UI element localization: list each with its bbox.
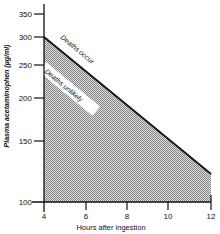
shaded-region bbox=[44, 37, 211, 202]
nomogram-chart: Deaths unlikely Deaths occur 350 300 250… bbox=[0, 0, 220, 234]
y-ticks bbox=[34, 14, 44, 141]
x-tick-labels: 4 6 8 10 12 bbox=[42, 212, 216, 221]
svg-text:200: 200 bbox=[19, 94, 33, 103]
x-axis-title: Hours after ingestion bbox=[76, 223, 145, 232]
svg-text:4: 4 bbox=[42, 212, 47, 221]
svg-text:350: 350 bbox=[19, 10, 33, 19]
svg-text:100: 100 bbox=[19, 198, 33, 207]
svg-text:6: 6 bbox=[84, 212, 89, 221]
y-axis-title: Plasma acetaminophen (µg/ml) bbox=[3, 44, 11, 148]
y-tick-labels: 350 300 250 200 150 100 bbox=[19, 10, 33, 207]
svg-text:300: 300 bbox=[19, 33, 33, 42]
svg-text:12: 12 bbox=[207, 212, 216, 221]
svg-text:8: 8 bbox=[125, 212, 130, 221]
svg-text:150: 150 bbox=[19, 137, 33, 146]
svg-text:10: 10 bbox=[164, 212, 173, 221]
svg-text:250: 250 bbox=[19, 61, 33, 70]
